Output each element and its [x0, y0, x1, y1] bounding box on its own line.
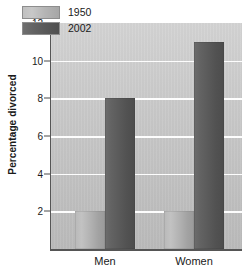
bar-women-1950: [164, 211, 194, 249]
y-axis-title: Percentage divorced: [0, 0, 24, 249]
y-tick-label-8: 8: [37, 93, 43, 104]
bar-women-2002: [194, 42, 224, 249]
x-tick-label-women: Women: [175, 255, 213, 267]
x-axis-line: [50, 249, 242, 251]
legend-swatch-1950: [22, 6, 60, 19]
y-tick-label-6: 6: [37, 131, 43, 142]
legend-label-1950: 1950: [68, 6, 91, 18]
y-axis-title-text: Percentage divorced: [7, 74, 18, 174]
legend-item-1950: 1950: [22, 5, 91, 19]
bar-men-2002: [105, 98, 135, 249]
plot-area: [51, 23, 242, 249]
y-tick-label-2: 2: [37, 206, 43, 217]
y-tick-label-10: 10: [32, 55, 43, 66]
legend: 1950 2002: [22, 5, 91, 37]
bar-men-1950: [75, 211, 105, 249]
bar-chart: Percentage divorced 12 10 8 6 4 2: [0, 0, 252, 274]
legend-item-2002: 2002: [22, 21, 91, 35]
x-tick-label-men: Men: [94, 255, 115, 267]
y-axis-tick-labels: 12 10 8 6 4 2: [24, 0, 50, 274]
x-axis-tick-labels: Men Women: [51, 255, 242, 273]
legend-swatch-2002: [22, 22, 60, 35]
legend-label-2002: 2002: [68, 22, 91, 34]
y-tick-label-4: 4: [37, 168, 43, 179]
